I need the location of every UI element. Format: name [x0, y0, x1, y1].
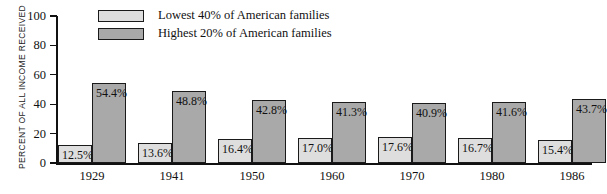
bar-value-label: 13.6%	[142, 146, 173, 161]
bar-value-label: 54.4%	[96, 86, 127, 101]
bar-value-label: 12.5%	[62, 148, 93, 163]
bar-value-label: 42.8%	[256, 103, 287, 118]
x-label-1929: 1929	[58, 169, 126, 184]
bar-value-label: 48.8%	[176, 94, 207, 109]
bar-value-label: 16.4%	[222, 142, 253, 157]
bar-value-label: 15.4%	[542, 143, 573, 158]
bar-value-label: 43.7%	[576, 102, 607, 117]
bar-highest20-1970: 40.9%	[412, 103, 446, 163]
plot-area: 12.5%54.4%13.6%48.8%16.4%42.8%17.0%41.3%…	[0, 0, 604, 163]
bar-lowest40-1970: 17.6%	[378, 137, 412, 163]
bar-value-label: 17.6%	[382, 140, 413, 155]
bar-lowest40-1950: 16.4%	[218, 139, 252, 163]
bar-value-label: 40.9%	[416, 106, 447, 121]
bar-highest20-1950: 42.8%	[252, 100, 286, 163]
bar-value-label: 41.3%	[336, 105, 367, 120]
bar-lowest40-1960: 17.0%	[298, 138, 332, 163]
x-label-1950: 1950	[218, 169, 286, 184]
x-label-1986: 1986	[538, 169, 606, 184]
bar-highest20-1980: 41.6%	[492, 102, 526, 163]
bar-lowest40-1980: 16.7%	[458, 138, 492, 163]
bar-lowest40-1941: 13.6%	[138, 143, 172, 163]
bar-value-label: 41.6%	[496, 105, 527, 120]
bar-value-label: 16.7%	[462, 141, 493, 156]
bar-highest20-1960: 41.3%	[332, 102, 366, 163]
bar-highest20-1986: 43.7%	[572, 99, 606, 163]
x-label-1960: 1960	[298, 169, 366, 184]
bar-lowest40-1986: 15.4%	[538, 140, 572, 163]
bar-highest20-1929: 54.4%	[92, 83, 126, 163]
x-label-1970: 1970	[378, 169, 446, 184]
bar-value-label: 17.0%	[302, 141, 333, 156]
x-label-1941: 1941	[138, 169, 206, 184]
x-label-1980: 1980	[458, 169, 526, 184]
bar-highest20-1941: 48.8%	[172, 91, 206, 163]
x-axis-line	[56, 163, 592, 165]
bar-lowest40-1929: 12.5%	[58, 145, 92, 163]
